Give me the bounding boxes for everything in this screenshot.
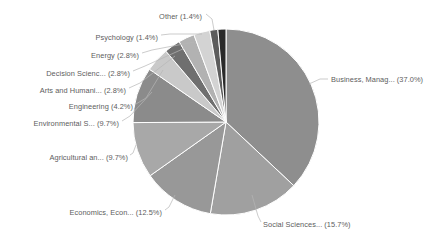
pie-chart-svg: Business, Manag... (37.0%)Social Science… <box>0 0 442 240</box>
slice-label-engineering: Engineering (4.2%) <box>69 102 133 111</box>
slice-label-other: Other (1.4%) <box>159 12 202 21</box>
slice-label-environmental: Environmental S... (9.7%) <box>34 119 119 128</box>
slice-label-decision-sciences: Decision Scienc... (2.8%) <box>46 69 130 78</box>
pie-chart-figure: Business, Manag... (37.0%)Social Science… <box>0 0 442 240</box>
pie-slices-group <box>133 29 319 215</box>
leader-line-agricultural <box>130 145 136 155</box>
slice-label-psychology: Psychology (1.4%) <box>96 33 158 42</box>
slice-label-energy: Energy (2.8%) <box>91 51 139 60</box>
slice-label-business: Business, Manag... (37.0%) <box>331 75 423 84</box>
slice-label-agricultural: Agricultural an... (9.7%) <box>50 153 128 162</box>
slice-label-arts-humanities: Arts and Humani... (2.8%) <box>40 86 126 95</box>
slice-label-economics: Economics, Econ... (12.5%) <box>70 208 163 217</box>
leader-line-business <box>309 79 328 84</box>
slice-label-social-sciences: Social Sciences... (15.7%) <box>263 220 351 229</box>
leader-line-economics <box>165 195 175 210</box>
leader-line-other <box>206 14 214 30</box>
